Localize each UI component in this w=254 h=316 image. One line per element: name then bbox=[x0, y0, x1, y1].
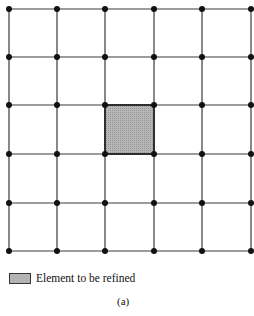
mesh-node bbox=[102, 54, 108, 60]
mesh-diagram bbox=[0, 0, 254, 262]
mesh-node bbox=[102, 102, 108, 108]
mesh-node bbox=[199, 102, 205, 108]
mesh-node bbox=[6, 54, 12, 60]
legend-swatch bbox=[9, 273, 31, 284]
figure-caption: (a) bbox=[117, 294, 129, 308]
mesh-node bbox=[151, 151, 157, 157]
mesh-node bbox=[6, 248, 12, 254]
mesh-node bbox=[6, 151, 12, 157]
mesh-node bbox=[54, 102, 60, 108]
mesh-node bbox=[248, 151, 254, 157]
mesh-node bbox=[102, 151, 108, 157]
mesh-node bbox=[151, 6, 157, 12]
mesh-node bbox=[54, 54, 60, 60]
mesh-node bbox=[102, 6, 108, 12]
mesh-node bbox=[248, 54, 254, 60]
mesh-node bbox=[151, 102, 157, 108]
mesh-node bbox=[151, 200, 157, 206]
mesh-node bbox=[248, 248, 254, 254]
mesh-node bbox=[54, 200, 60, 206]
mesh-node bbox=[6, 102, 12, 108]
legend-label: Element to be refined bbox=[36, 271, 135, 285]
mesh-node bbox=[54, 6, 60, 12]
mesh-node bbox=[199, 248, 205, 254]
mesh-node bbox=[199, 54, 205, 60]
mesh-node bbox=[199, 200, 205, 206]
mesh-node bbox=[151, 54, 157, 60]
mesh-node bbox=[151, 248, 157, 254]
mesh-node bbox=[54, 248, 60, 254]
mesh-node bbox=[199, 6, 205, 12]
mesh-node bbox=[248, 6, 254, 12]
mesh-node bbox=[199, 151, 205, 157]
mesh-node bbox=[54, 151, 60, 157]
element-to-be-refined bbox=[105, 105, 154, 154]
mesh-node bbox=[102, 248, 108, 254]
highlighted-element bbox=[105, 105, 154, 154]
legend: Element to be refined bbox=[9, 271, 135, 285]
mesh-node bbox=[248, 102, 254, 108]
mesh-node bbox=[248, 200, 254, 206]
mesh-node bbox=[102, 200, 108, 206]
mesh-node bbox=[6, 6, 12, 12]
mesh-node bbox=[6, 200, 12, 206]
